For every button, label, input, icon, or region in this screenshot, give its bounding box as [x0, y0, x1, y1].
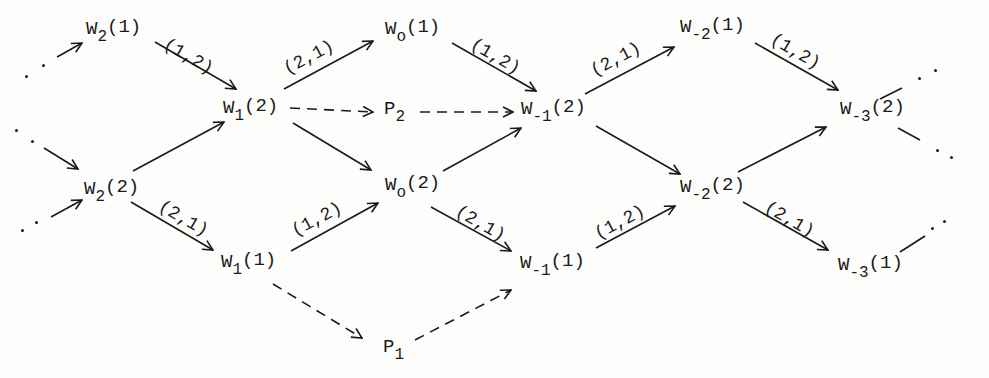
ellipsis-dot-right	[943, 220, 946, 223]
node-Wm2_1: W-2(1)	[680, 18, 745, 37]
edge-P1-to-Wm1_1	[415, 290, 511, 340]
node-base-symbol: W	[84, 178, 95, 200]
node-base-symbol: W	[520, 252, 531, 274]
edge-Wm2_2-to-Wm3_2	[738, 127, 826, 172]
node-subscript: 2	[95, 188, 105, 206]
node-argument: (2)	[711, 174, 745, 196]
node-argument: (2)	[871, 96, 905, 118]
node-W0_1: Wo(1)	[385, 20, 440, 39]
ellipsis-dot-right	[931, 227, 934, 230]
node-base-symbol: W	[385, 174, 396, 196]
node-base-symbol: W	[838, 254, 849, 276]
outgoing-stub-line	[900, 236, 925, 252]
node-subscript: o	[396, 28, 406, 46]
node-subscript: -1	[532, 108, 551, 126]
node-P1: P1	[383, 338, 404, 357]
node-base-symbol: W	[521, 98, 532, 120]
node-base-symbol: W	[385, 18, 396, 40]
incoming-stub-arrow	[57, 43, 82, 57]
node-argument: (2)	[105, 176, 139, 198]
node-subscript: 2	[395, 108, 405, 126]
node-subscript: 1	[234, 107, 244, 125]
node-Wm1_2: W-1(2)	[521, 100, 586, 119]
node-argument: (1)	[711, 14, 745, 36]
node-subscript: -3	[849, 264, 868, 282]
node-W2_1: W2(1)	[86, 20, 141, 39]
incoming-stub-arrow	[51, 200, 82, 217]
node-subscript: 1	[394, 346, 404, 364]
node-argument: (1)	[107, 16, 141, 38]
ellipsis-dot-left	[42, 64, 45, 67]
node-W2_2: W2(2)	[84, 180, 139, 199]
ellipsis-dot-left	[31, 140, 34, 143]
node-base-symbol: P	[383, 336, 394, 358]
ellipsis-dot-right	[918, 77, 921, 80]
node-argument: (2)	[244, 95, 278, 117]
node-subscript: -1	[531, 262, 550, 280]
node-base-symbol: W	[680, 176, 691, 198]
node-P2: P2	[384, 100, 405, 119]
node-argument: (1)	[869, 252, 903, 274]
ellipsis-dot-right	[950, 156, 953, 159]
node-W0_2: Wo(2)	[385, 176, 440, 195]
ellipsis-dot-right	[934, 69, 937, 72]
node-base-symbol: W	[86, 18, 97, 40]
node-argument: (1)	[406, 16, 440, 38]
edge-W1_1-to-P1	[273, 284, 362, 338]
outgoing-stub-line	[898, 128, 920, 140]
node-base-symbol: P	[384, 98, 395, 120]
node-W1_2: W1(2)	[223, 99, 278, 118]
edge-Wm1_2-to-Wm2_2	[596, 126, 680, 174]
node-subscript: 1	[232, 261, 242, 279]
node-subscript: -3	[851, 108, 870, 126]
node-base-symbol: W	[223, 97, 234, 119]
node-subscript: -2	[691, 186, 710, 204]
node-subscript: o	[396, 184, 406, 202]
ellipsis-dot-right	[936, 149, 939, 152]
ellipsis-dot-left	[15, 129, 18, 132]
node-argument: (2)	[406, 172, 440, 194]
node-argument: (1)	[551, 250, 585, 272]
ellipsis-dot-left	[25, 75, 28, 78]
node-base-symbol: W	[840, 98, 851, 120]
node-Wm2_2: W-2(2)	[680, 178, 745, 197]
ellipsis-dot-left	[35, 221, 38, 224]
edge-W1_2-to-W0_2	[293, 123, 371, 170]
incoming-stub-arrow	[44, 148, 78, 169]
node-argument: (2)	[552, 96, 586, 118]
edge-W2_2-to-W1_2	[133, 122, 224, 171]
node-Wm3_1: W-3(1)	[838, 256, 903, 275]
node-Wm1_1: W-1(1)	[520, 254, 585, 273]
ellipsis-dot-left	[21, 229, 24, 232]
node-base-symbol: W	[680, 16, 691, 38]
node-W1_1: W1(1)	[221, 253, 276, 272]
node-base-symbol: W	[221, 251, 232, 273]
node-argument: (1)	[242, 249, 276, 271]
node-subscript: 2	[97, 28, 107, 46]
edge-W1_2-to-P2	[290, 108, 373, 112]
node-Wm3_2: W-3(2)	[840, 100, 905, 119]
edge-W0_2-to-Wm1_2	[443, 128, 521, 171]
node-subscript: -2	[691, 26, 710, 44]
